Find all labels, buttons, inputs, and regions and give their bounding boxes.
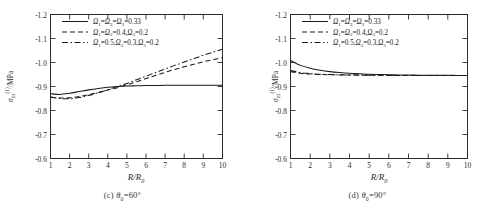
y-tick-label: -0.9 xyxy=(275,83,287,92)
caption-value-c: =60° xyxy=(124,190,142,200)
panel-c: σzz(1)/MPa -1 xyxy=(0,0,245,220)
y-tick-label: -0.6 xyxy=(275,155,287,164)
caption-prefix-d: (d) xyxy=(349,190,360,200)
x-tick-labels-c: 1 2 3 4 5 6 7 8 9 10 xyxy=(49,161,227,170)
x-axis-title-d: R/R0 xyxy=(289,172,469,184)
x-tick-label: 3 xyxy=(87,161,91,170)
curve-solid-d xyxy=(291,61,468,76)
x-axis-title-c: R/R0 xyxy=(46,172,226,184)
x-tick-label: 10 xyxy=(219,161,227,170)
x-tick-label: 10 xyxy=(464,161,472,170)
legend-d: Ω1=Ω2=Ω3=0.33 Ω1=Ω2=0.4,Ω3=0.2 Ω1=0.5,Ω2… xyxy=(302,18,399,48)
x-tick-label: 1 xyxy=(289,161,293,170)
curve-dashdot-c xyxy=(51,49,223,99)
y-tick-label: -0.6 xyxy=(35,155,47,164)
x-tick-label: 9 xyxy=(201,161,205,170)
x-tick-label: 6 xyxy=(144,161,148,170)
x-tick-label: 2 xyxy=(68,161,72,170)
x-tick-label: 1 xyxy=(49,161,53,170)
legend-label-dashed: Ω1=Ω2=0.4,Ω3=0.2 xyxy=(93,29,148,38)
x-tick-label: 6 xyxy=(387,161,391,170)
x-tick-label: 7 xyxy=(163,161,167,170)
y-tick-label: -0.8 xyxy=(35,107,47,116)
data-curves-c xyxy=(51,49,223,99)
y-tick-labels-d: -1.2 -1.1 -1.0 -0.9 -0.8 -0.7 -0.6 xyxy=(275,11,287,164)
panel-caption-c: (c) θ0=60° xyxy=(0,190,245,202)
curve-solid-c xyxy=(51,85,223,94)
x-tick-labels-d: 1 2 3 4 5 6 7 8 9 10 xyxy=(289,161,472,170)
legend-c: Ω1=Ω2=Ω3=0.33 Ω1=Ω2=0.4,Ω3=0.2 Ω1=0.5,Ω2… xyxy=(62,18,159,48)
y-tick-labels-c: -1.2 -1.1 -1.0 -0.9 -0.8 -0.7 -0.6 xyxy=(35,11,47,164)
y-tick-label: -1.2 xyxy=(35,11,47,20)
y-tick-label: -1.0 xyxy=(35,59,47,68)
x-tick-label: 5 xyxy=(125,161,129,170)
y-tick-label: -0.7 xyxy=(35,131,47,140)
y-tick-label: -1.1 xyxy=(35,35,47,44)
x-tick-label: 5 xyxy=(367,161,371,170)
legend-label-dashdot: Ω1=0.5,Ω2=0.3,Ω3=0.2 xyxy=(333,39,399,48)
data-curves-d xyxy=(291,61,468,76)
y-tick-label: -1.1 xyxy=(275,35,287,44)
panel-caption-d: (d) θ0=90° xyxy=(245,190,490,202)
x-tick-label: 2 xyxy=(308,161,312,170)
plot-area-d: -1.2 -1.1 -1.0 -0.9 -0.8 -0.7 -0.6 xyxy=(245,0,490,190)
caption-prefix-c: (c) xyxy=(104,190,114,200)
y-tick-label: -1.0 xyxy=(275,59,287,68)
y-tick-label: -0.8 xyxy=(275,107,287,116)
x-tick-label: 8 xyxy=(182,161,186,170)
figure-two-panel-stress-plots: σzz(1)/MPa -1 xyxy=(0,0,490,220)
legend-label-solid: Ω1=Ω2=Ω3=0.33 xyxy=(93,18,141,27)
x-tick-label: 9 xyxy=(446,161,450,170)
y-tick-label: -1.2 xyxy=(275,11,287,20)
y-tick-label: -0.9 xyxy=(35,83,47,92)
panel-d: σzz(1)/MPa -1.2 -1. xyxy=(245,0,490,220)
legend-label-dashdot: Ω1=0.5,Ω2=0.3,Ω3=0.2 xyxy=(93,39,159,48)
x-tick-label: 4 xyxy=(348,161,352,170)
x-tick-label: 7 xyxy=(407,161,411,170)
legend-label-dashed: Ω1=Ω2=0.4,Ω3=0.2 xyxy=(333,29,388,38)
y-tick-label: -0.7 xyxy=(275,131,287,140)
legend-label-solid: Ω1=Ω2=Ω3=0.33 xyxy=(333,18,381,27)
caption-value-d: =90° xyxy=(369,190,387,200)
plot-area-c: -1.2 -1.1 -1.0 -0.9 -0.8 -0.7 -0.6 xyxy=(0,0,245,190)
x-tick-label: 4 xyxy=(106,161,110,170)
x-tick-label: 3 xyxy=(328,161,332,170)
x-tick-label: 8 xyxy=(426,161,430,170)
